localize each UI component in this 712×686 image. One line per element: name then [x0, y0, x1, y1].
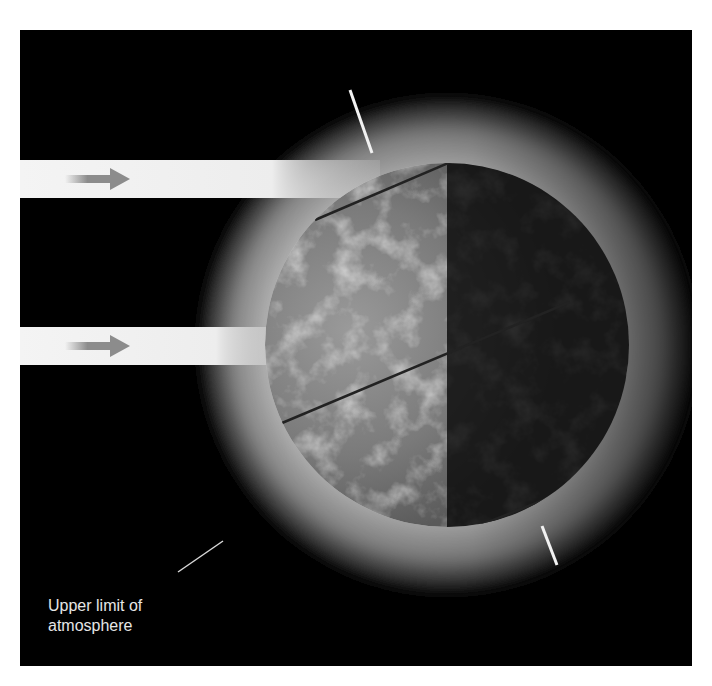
label-pointer-line — [178, 541, 223, 572]
atmosphere-label-line1: Upper limit of — [48, 596, 142, 616]
atmosphere-label-line2: atmosphere — [48, 616, 142, 636]
atmosphere-label: Upper limit of atmosphere — [48, 596, 142, 636]
diagram-frame: Upper limit of atmosphere — [20, 30, 692, 666]
earth-illumination-illustration — [20, 30, 692, 666]
